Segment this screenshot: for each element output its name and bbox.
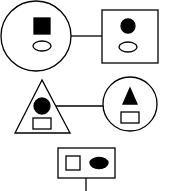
hollow-rectangle-icon [121,112,139,123]
outer-square-shape [102,10,158,63]
hollow-ellipse-icon [119,42,137,52]
hollow-square-icon [66,156,80,170]
row1-right-square-group [102,10,158,63]
filled-triangle-icon [123,88,137,104]
filled-circle-icon [34,98,50,114]
row3-center-rectangle-group [58,148,115,191]
filled-square-icon [34,18,50,34]
row2-right-circle-group [103,77,157,131]
row1-left-circle-group [1,1,71,71]
outer-circle-shape [1,1,71,71]
hollow-rectangle-icon [33,118,51,129]
puzzle-diagram [0,0,173,191]
filled-circle-icon [121,19,135,33]
hollow-ellipse-icon [33,41,51,51]
filled-ellipse-icon [90,158,108,169]
